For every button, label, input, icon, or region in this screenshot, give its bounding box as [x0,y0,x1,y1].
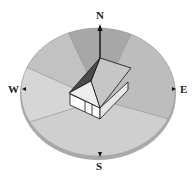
north-label: N [96,10,104,21]
east-label: E [180,84,187,95]
compass-diagram [0,0,195,180]
south-label: S [96,161,102,172]
west-label: W [8,84,19,95]
